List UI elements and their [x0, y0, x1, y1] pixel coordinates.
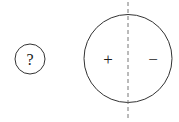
unknown-object-label: ?: [26, 51, 33, 68]
negative-charge-label: −: [148, 50, 158, 69]
diagram: ? + −: [0, 0, 179, 122]
positive-charge-label: +: [103, 50, 113, 69]
